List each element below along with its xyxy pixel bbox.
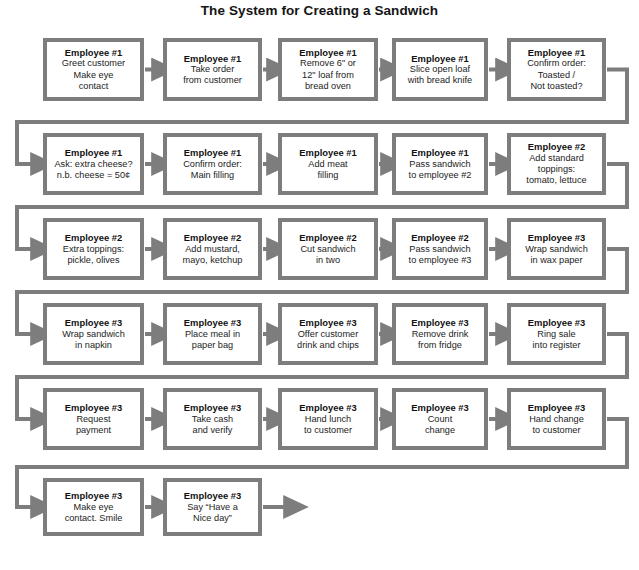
process-node[interactable]: Employee #1Greet customerMake eyecontact bbox=[43, 38, 144, 101]
process-node[interactable]: Employee #3Hand lunchto customer bbox=[278, 388, 378, 450]
node-role-label: Employee #1 bbox=[65, 147, 122, 158]
node-task-line: Add meat bbox=[308, 159, 347, 170]
process-node[interactable]: Employee #1Add meatfilling bbox=[278, 133, 378, 195]
node-task-line: paper bag bbox=[185, 340, 240, 351]
node-task-text: Ring saleinto register bbox=[532, 329, 580, 351]
node-task-text: Remove drinkfrom fridge bbox=[412, 329, 469, 351]
node-task-text: Greet customerMake eyecontact bbox=[62, 58, 125, 92]
process-node[interactable]: Employee #1Pass sandwichto employee #2 bbox=[392, 133, 488, 195]
process-node[interactable]: Employee #1Slice open loafwith bread kni… bbox=[392, 38, 488, 101]
node-task-line: with bread knife bbox=[408, 75, 472, 86]
node-role-label: Employee #1 bbox=[299, 147, 356, 158]
node-role-label: Employee #1 bbox=[411, 147, 468, 158]
process-node[interactable]: Employee #1Confirm order:Toasted /Not to… bbox=[507, 38, 606, 101]
node-task-line: Make eye bbox=[62, 70, 125, 81]
node-role-label: Employee #1 bbox=[184, 53, 241, 64]
node-task-text: Add standardtoppings:tomato, lettuce bbox=[526, 153, 586, 187]
node-task-line: n.b. cheese = 50¢ bbox=[54, 170, 132, 181]
node-task-line: Extra toppings: bbox=[63, 244, 124, 255]
node-task-text: Countchange bbox=[425, 414, 455, 436]
node-task-text: Take cashand verify bbox=[192, 414, 233, 436]
node-task-line: change bbox=[425, 425, 455, 436]
node-task-text: Slice open loafwith bread knife bbox=[408, 64, 472, 86]
process-node[interactable]: Employee #3Wrap sandwichin napkin bbox=[43, 303, 144, 365]
flowchart-canvas: The System for Creating a Sandwich Emplo… bbox=[0, 0, 639, 570]
node-task-line: Wrap sandwich bbox=[525, 244, 588, 255]
node-task-line: mayo, ketchup bbox=[183, 255, 243, 266]
process-node[interactable]: Employee #2Add standardtoppings:tomato, … bbox=[507, 133, 606, 195]
node-role-label: Employee #3 bbox=[411, 317, 468, 328]
process-node[interactable]: Employee #3Remove drinkfrom fridge bbox=[392, 303, 488, 365]
node-task-line: tomato, lettuce bbox=[526, 175, 586, 186]
node-task-line: 12" loaf from bbox=[300, 70, 356, 81]
node-task-line: to customer bbox=[304, 425, 352, 436]
process-node[interactable]: Employee #3Ring saleinto register bbox=[507, 303, 606, 365]
process-node[interactable]: Employee #1Take orderfrom customer bbox=[163, 38, 262, 101]
process-node[interactable]: Employee #1Remove 6" or12" loaf frombrea… bbox=[278, 38, 378, 101]
node-role-label: Employee #3 bbox=[65, 317, 122, 328]
node-task-line: Nice day” bbox=[187, 513, 238, 524]
node-task-line: Ask: extra cheese? bbox=[54, 159, 132, 170]
node-task-line: bread oven bbox=[300, 81, 356, 92]
node-role-label: Employee #1 bbox=[184, 147, 241, 158]
process-node[interactable]: Employee #2Add mustard,mayo, ketchup bbox=[163, 218, 262, 280]
process-node[interactable]: Employee #3Requestpayment bbox=[43, 388, 144, 450]
node-task-line: Slice open loaf bbox=[408, 64, 472, 75]
node-role-label: Employee #2 bbox=[411, 232, 468, 243]
node-task-text: Add mustard,mayo, ketchup bbox=[183, 244, 243, 266]
node-task-line: Take cash bbox=[192, 414, 233, 425]
node-task-text: Ask: extra cheese?n.b. cheese = 50¢ bbox=[54, 159, 132, 181]
node-role-label: Employee #3 bbox=[528, 402, 585, 413]
node-role-label: Employee #1 bbox=[411, 53, 468, 64]
node-task-line: Hand change bbox=[529, 414, 584, 425]
process-node[interactable]: Employee #3Say “Have aNice day” bbox=[163, 478, 262, 536]
node-task-line: Pass sandwich bbox=[409, 244, 472, 255]
node-task-text: Make eyecontact. Smile bbox=[65, 502, 123, 524]
node-task-line: drink and chips bbox=[297, 340, 359, 351]
node-task-line: Make eye bbox=[65, 502, 123, 513]
node-task-line: Offer customer bbox=[297, 329, 359, 340]
node-role-label: Employee #2 bbox=[184, 232, 241, 243]
node-role-label: Employee #1 bbox=[528, 47, 585, 58]
node-task-line: Confirm order: bbox=[527, 58, 586, 69]
process-node[interactable]: Employee #3Countchange bbox=[392, 388, 488, 450]
node-role-label: Employee #3 bbox=[184, 317, 241, 328]
node-task-text: Confirm order:Main filling bbox=[183, 159, 242, 181]
process-node[interactable]: Employee #3Place meal inpaper bag bbox=[163, 303, 262, 365]
node-task-line: Request bbox=[76, 414, 111, 425]
node-task-text: Cut sandwichin two bbox=[300, 244, 355, 266]
process-node[interactable]: Employee #2Pass sandwichto employee #3 bbox=[392, 218, 488, 280]
node-role-label: Employee #2 bbox=[528, 141, 585, 152]
node-role-label: Employee #3 bbox=[299, 402, 356, 413]
process-node[interactable]: Employee #3Take cashand verify bbox=[163, 388, 262, 450]
node-task-line: Count bbox=[425, 414, 455, 425]
process-node[interactable]: Employee #3Offer customerdrink and chips bbox=[278, 303, 378, 365]
node-task-line: and verify bbox=[192, 425, 233, 436]
node-task-line: Add standard bbox=[526, 153, 586, 164]
node-task-line: filling bbox=[308, 170, 347, 181]
node-task-line: Greet customer bbox=[62, 58, 125, 69]
process-node[interactable]: Employee #2Extra toppings:pickle, olives bbox=[43, 218, 144, 280]
process-node[interactable]: Employee #3Make eyecontact. Smile bbox=[43, 478, 144, 536]
node-task-text: Remove 6" or12" loaf frombread oven bbox=[300, 58, 356, 92]
process-node[interactable]: Employee #3Hand changeto customer bbox=[507, 388, 606, 450]
node-task-text: Wrap sandwichin napkin bbox=[62, 329, 125, 351]
node-task-text: Requestpayment bbox=[76, 414, 111, 436]
node-role-label: Employee #3 bbox=[528, 232, 585, 243]
process-node[interactable]: Employee #1Ask: extra cheese?n.b. cheese… bbox=[43, 133, 144, 195]
node-task-line: Add mustard, bbox=[183, 244, 243, 255]
process-node[interactable]: Employee #1Confirm order:Main filling bbox=[163, 133, 262, 195]
node-role-label: Employee #1 bbox=[65, 47, 122, 58]
node-task-line: Hand lunch bbox=[304, 414, 352, 425]
node-task-line: Main filling bbox=[183, 170, 242, 181]
node-role-label: Employee #2 bbox=[65, 232, 122, 243]
node-task-line: to employee #2 bbox=[409, 170, 472, 181]
process-node[interactable]: Employee #2Cut sandwichin two bbox=[278, 218, 378, 280]
node-task-line: Remove drink bbox=[412, 329, 469, 340]
node-role-label: Employee #3 bbox=[184, 402, 241, 413]
node-role-label: Employee #2 bbox=[299, 232, 356, 243]
node-task-text: Extra toppings:pickle, olives bbox=[63, 244, 124, 266]
node-task-line: Place meal in bbox=[185, 329, 240, 340]
page-title: The System for Creating a Sandwich bbox=[0, 3, 639, 18]
process-node[interactable]: Employee #3Wrap sandwichin wax paper bbox=[507, 218, 606, 280]
